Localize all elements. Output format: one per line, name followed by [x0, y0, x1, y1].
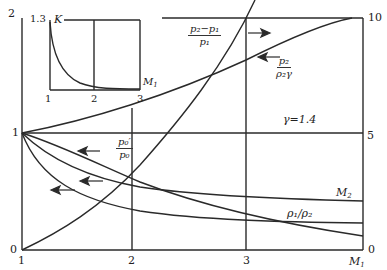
inset-x-label: M1 [143, 77, 158, 89]
y-left-tick-2: 2 [8, 8, 15, 19]
y-left-tick-0: 0 [10, 244, 17, 255]
y-left-tick-1: 1 [12, 127, 19, 138]
stagnation-pressure-label: p₀′ p₀ [116, 137, 133, 160]
y-right-tick-10: 10 [368, 12, 382, 23]
y-right-tick-0: 0 [368, 244, 375, 255]
inset-y-label: K [54, 14, 62, 25]
x-tick-1: 1 [18, 255, 25, 266]
x-tick-3: 3 [243, 255, 250, 266]
inset-x-tick-3: 3 [137, 94, 143, 104]
y-right-tick-5: 5 [367, 130, 374, 141]
arrow-left-p0 [78, 147, 100, 155]
arrow-left-density [51, 186, 75, 194]
stagnation-pressure-curve [22, 133, 363, 236]
inset-x-tick-2: 2 [91, 94, 97, 104]
x-axis-label: M1 [349, 256, 365, 269]
inset-y-tick: 1.3 [30, 14, 46, 24]
arrow-left-m2 [80, 177, 103, 185]
pressure-jump-label: p₂−p₁ p₁ [188, 24, 221, 47]
m2-label: M2 [336, 187, 352, 200]
p2-rho2-gamma-label: p₂ ρ₂γ [274, 56, 294, 79]
arrow-right-pressure-jump [248, 29, 270, 37]
m2-curve [22, 133, 363, 201]
gamma-annotation: γ=1.4 [283, 114, 316, 125]
inset-k-curve [50, 22, 140, 89]
inset-x-tick-1: 1 [45, 94, 51, 104]
x-tick-2: 2 [128, 255, 135, 266]
density-ratio-label: ρ₁/ρ₂ [287, 208, 312, 219]
